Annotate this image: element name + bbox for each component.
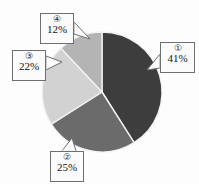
pie-chart xyxy=(0,0,199,184)
slice-label-3: ③ 22% xyxy=(12,50,46,81)
slice-label-2: ② 25% xyxy=(50,151,84,182)
pie-slices-group xyxy=(42,32,162,152)
slice-percent-3: 22% xyxy=(15,61,43,73)
slice-label-1: ① 41% xyxy=(160,42,195,73)
slice-percent-1: 41% xyxy=(163,53,192,65)
slice-percent-4: 12% xyxy=(43,24,71,36)
chart-area: ① 41% ② 25% ③ 22% ④ 12% xyxy=(0,0,199,184)
slice-label-4: ④ 12% xyxy=(40,13,74,44)
pie-chart-figure: ① 41% ② 25% ③ 22% ④ 12% xyxy=(0,0,199,184)
slice-percent-2: 25% xyxy=(53,162,81,174)
